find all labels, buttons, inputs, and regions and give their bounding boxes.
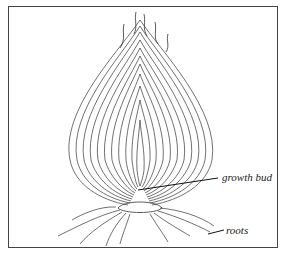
roots-label: roots — [226, 224, 248, 236]
roots-leader — [208, 230, 224, 234]
leader-lines — [138, 178, 224, 234]
growth-bud-label: growth bud — [222, 171, 272, 183]
bulb-illustration — [0, 0, 285, 258]
bulb-scales — [69, 20, 213, 205]
basal-plate — [118, 202, 162, 213]
